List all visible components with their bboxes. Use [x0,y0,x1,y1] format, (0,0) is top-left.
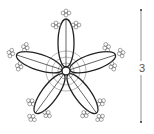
picot [54,21,58,25]
picot [113,64,117,68]
picot-cluster [97,99,106,106]
picot [15,64,19,68]
picot [84,114,88,118]
picot-cluster [15,62,23,72]
picot [28,102,32,106]
picot [99,118,103,122]
dimension-label: 3 [136,61,148,75]
picot [32,118,36,122]
picot-cluster [109,62,117,72]
flower-diagram [0,0,154,134]
picot [44,114,48,118]
picot-cluster [27,99,36,106]
picot-cluster [22,43,30,53]
picot [48,114,52,118]
picot [107,45,111,49]
picot [121,51,125,55]
picot-cluster [28,114,37,121]
picot-cluster [117,48,125,58]
center-ring [62,67,70,75]
picot [74,21,78,25]
picot [7,51,11,55]
picot [64,9,68,13]
spoke [66,71,97,113]
picot-cluster [103,43,111,53]
picot-cluster [96,114,105,121]
picot [29,118,33,122]
picot [96,118,100,122]
picot-cluster [7,48,15,58]
picot [81,114,85,118]
picot [100,102,104,106]
spoke [35,71,66,113]
picot [22,45,26,49]
picot-cluster [61,9,71,17]
